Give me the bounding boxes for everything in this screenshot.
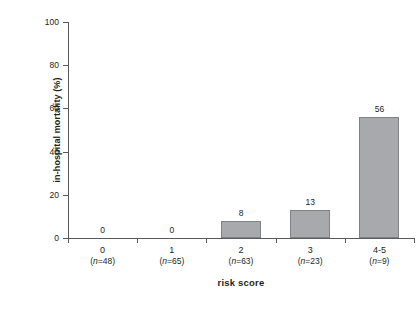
x-tick-mark xyxy=(345,238,346,243)
x-category-label: 1(n=65) xyxy=(159,245,184,267)
y-tick-label: 100 xyxy=(45,17,59,27)
x-tick-mark xyxy=(137,238,138,243)
bar-value-label: 56 xyxy=(375,104,384,114)
x-category-label: 4-5(n=9) xyxy=(369,245,389,267)
bar xyxy=(290,210,330,238)
category-sample-size: (n=48) xyxy=(90,256,115,267)
y-tick-label: 60 xyxy=(50,103,59,113)
x-tick-mark xyxy=(68,238,69,243)
category-name: 4-5 xyxy=(369,245,389,256)
x-category-label: 3(n=23) xyxy=(298,245,323,267)
bar-chart: in-hospital mortality (%) 020406080100 0… xyxy=(0,0,419,312)
bar-value-label: 0 xyxy=(100,225,105,235)
category-sample-size: (n=63) xyxy=(229,256,254,267)
category-sample-size: (n=23) xyxy=(298,256,323,267)
category-name: 3 xyxy=(298,245,323,256)
plot-area xyxy=(68,22,414,238)
category-name: 1 xyxy=(159,245,184,256)
category-sample-size: (n=65) xyxy=(159,256,184,267)
category-name: 0 xyxy=(90,245,115,256)
y-tick-label: 40 xyxy=(50,147,59,157)
y-tick-label: 20 xyxy=(50,190,59,200)
x-category-label: 0(n=48) xyxy=(90,245,115,267)
bar xyxy=(221,221,261,238)
x-tick-mark xyxy=(206,238,207,243)
bar-value-label: 0 xyxy=(169,225,174,235)
category-name: 2 xyxy=(229,245,254,256)
y-axis-title: in-hospital mortality (%) xyxy=(52,77,62,182)
bar-value-label: 8 xyxy=(239,208,244,218)
y-tick-label: 80 xyxy=(50,60,59,70)
x-tick-mark xyxy=(276,238,277,243)
bar-value-label: 13 xyxy=(305,197,314,207)
x-tick-mark xyxy=(414,238,415,243)
x-category-label: 2(n=63) xyxy=(229,245,254,267)
x-axis-line xyxy=(68,238,415,239)
y-tick-label: 0 xyxy=(54,233,59,243)
category-sample-size: (n=9) xyxy=(369,256,389,267)
bar xyxy=(359,117,399,238)
y-axis-title-holder: in-hospital mortality (%) xyxy=(6,22,24,238)
x-axis-title: risk score xyxy=(68,277,414,288)
